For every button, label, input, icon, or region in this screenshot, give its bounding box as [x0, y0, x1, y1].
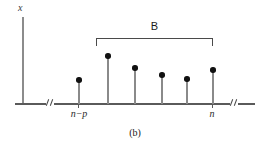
- left-axis-break: [44, 97, 56, 110]
- right-axis-break: [228, 97, 240, 110]
- y-axis-line: [22, 17, 24, 104]
- bracket-label: B: [96, 20, 213, 32]
- x-tick-label-right: n: [197, 108, 227, 119]
- x-tick-label-left: n−p: [58, 108, 100, 119]
- stem-plot-figure: x: [0, 0, 270, 149]
- y-axis-label: x: [18, 2, 22, 13]
- figure-caption: (b): [0, 127, 270, 138]
